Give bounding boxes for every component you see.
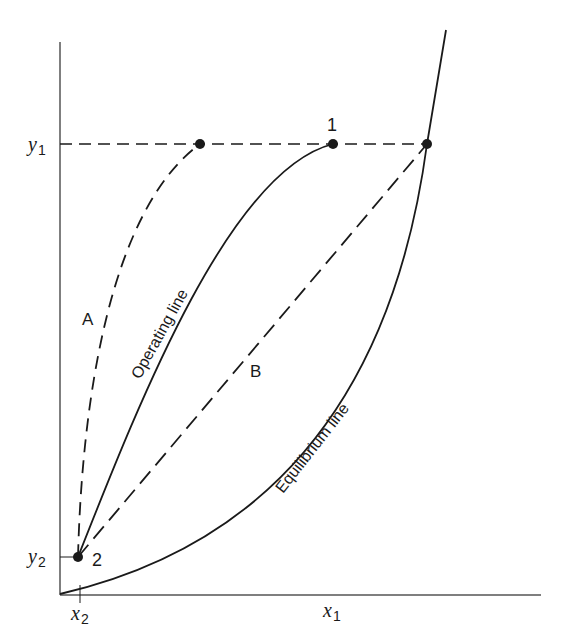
point-1-label: 1	[327, 115, 337, 135]
point-a-end	[195, 139, 205, 149]
y2-label: y2	[26, 545, 46, 570]
operating-equilibrium-diagram: y1 y2 x2 x1 1 2 A B Operating line Equil…	[0, 0, 575, 641]
point-2-label: 2	[92, 550, 102, 570]
curve-a-dashed	[78, 144, 200, 557]
operating-line-label: Operating line	[128, 286, 191, 381]
equilibrium-line-label: Equilibrium line	[272, 400, 352, 496]
x2-label: x2	[70, 602, 89, 627]
curve-a-label: A	[82, 310, 94, 329]
point-2	[73, 552, 83, 562]
line-b-label: B	[250, 362, 261, 381]
y1-label: y1	[26, 133, 46, 158]
point-1	[328, 139, 338, 149]
x1-label: x1	[322, 599, 341, 624]
operating-line	[78, 144, 333, 557]
point-equilibrium-intersection	[422, 139, 432, 149]
